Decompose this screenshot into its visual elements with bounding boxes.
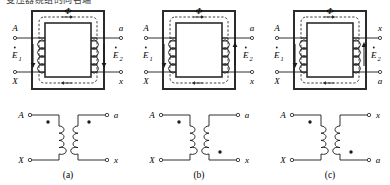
- panel-a-flux-path: [39, 17, 97, 83]
- panel-a-circuit-label-X: X: [17, 155, 24, 165]
- panel-c-emf-left-phasor-dot: [276, 47, 278, 49]
- panel-c-caption: (c): [325, 170, 336, 181]
- panel-a-emf-right: E 2: [104, 44, 124, 66]
- panel-b-circuit-label-x: x: [244, 155, 249, 165]
- panel-c-circuit-label-x: x: [375, 110, 380, 120]
- panel-b-flux-label: Φ: [196, 6, 203, 16]
- panel-a-polarity-dot-right: [87, 120, 90, 123]
- panel-a-flux-label: Φ: [65, 6, 72, 16]
- panel-b: Φ A X E 1: [142, 6, 255, 181]
- panel-a-emf-left: E 1: [11, 44, 33, 66]
- panel-a-emf-right-sub: 2: [120, 55, 124, 62]
- panel-c-circuit-label-X: X: [279, 155, 286, 165]
- panel-b-terminal-X: X: [142, 76, 149, 86]
- panel-a-terminal-a: a: [119, 23, 124, 33]
- panel-c-emf-right-sub: 2: [378, 55, 382, 62]
- panel-a-circuit-label-a: a: [114, 110, 119, 120]
- panel-c: Φ A X E 1: [273, 6, 383, 181]
- panel-a-emf-left-phasor-dot: [14, 47, 16, 49]
- panel-c-terminal-x: x: [377, 23, 382, 33]
- panel-a-caption: (a): [63, 170, 74, 181]
- panel-c-emf-left: E 1: [273, 44, 295, 66]
- panel-c-emf-left-sub: 1: [281, 55, 284, 62]
- panel-c-emf-right-label: E: [370, 50, 377, 60]
- panel-b-flux-path: [170, 17, 228, 83]
- panel-b-polarity-dot-left: [177, 120, 180, 123]
- panel-a-emf-right-phasor-dot: [115, 47, 117, 49]
- panel-a: Φ A X E 1: [11, 6, 124, 181]
- panel-b-emf-left-sub: 1: [150, 55, 153, 62]
- panel-b-circuit-label-A: A: [148, 110, 155, 120]
- panel-a-emf-right-label: E: [112, 50, 119, 60]
- panel-a-schematic: [31, 115, 106, 160]
- panel-b-schematic: [162, 115, 237, 160]
- panel-a-schematic-terminals: [28, 113, 108, 161]
- panel-c-terminal-X: X: [273, 76, 280, 86]
- panel-c-polarity-dot-right: [349, 150, 352, 153]
- panel-c-schematic-terminals: [290, 113, 370, 161]
- panel-b-emf-right: E 2: [235, 44, 254, 66]
- panel-c-flux-label: Φ: [327, 6, 334, 16]
- figure-canvas: Φ A X E 1: [0, 0, 390, 185]
- panel-c-core: [294, 11, 366, 89]
- panel-b-circuit-label-a: a: [245, 110, 250, 120]
- panel-b-terminal-a: a: [250, 23, 255, 33]
- panel-b-emf-left-phasor-dot: [145, 47, 147, 49]
- panel-c-polarity-dot-left: [308, 120, 311, 123]
- panel-b-emf-left: E 1: [142, 44, 164, 66]
- panel-a-core: [32, 11, 104, 89]
- panel-a-terminal-A: A: [11, 23, 18, 33]
- panel-c-circuit-label-A: A: [279, 110, 286, 120]
- panel-a-emf-left-sub: 1: [19, 55, 22, 62]
- panel-b-emf-right-phasor-dot: [245, 47, 247, 49]
- panel-b-terminal-x: x: [249, 76, 254, 86]
- panel-c-emf-left-label: E: [273, 50, 280, 60]
- panel-c-schematic: [293, 115, 368, 160]
- panel-a-polarity-dot-left: [46, 120, 49, 123]
- panel-a-emf-left-label: E: [11, 50, 18, 60]
- panel-a-circuit-label-A: A: [17, 110, 24, 120]
- panel-b-emf-right-sub: 2: [250, 55, 254, 62]
- panel-b-terminal-A: A: [142, 23, 149, 33]
- panel-c-terminal-a: a: [378, 76, 383, 86]
- panel-b-emf-left-label: E: [142, 50, 149, 60]
- panel-c-circuit-label-a: a: [376, 155, 381, 165]
- panel-b-emf-right-label: E: [242, 50, 249, 60]
- panel-b-schematic-terminals: [159, 113, 239, 161]
- panel-a-circuit-label-x: x: [113, 155, 118, 165]
- panel-b-caption: (b): [193, 170, 204, 181]
- panel-a-terminal-X: X: [11, 76, 18, 86]
- panel-b-polarity-dot-right: [218, 150, 221, 153]
- panel-b-core: [163, 11, 235, 89]
- panel-c-flux-path: [301, 17, 359, 83]
- panel-c-terminal-A: A: [273, 23, 280, 33]
- transformer-dot-convention-figure: Φ A X E 1: [0, 0, 390, 185]
- panel-a-terminal-x: x: [118, 76, 123, 86]
- panel-c-emf-right-phasor-dot: [373, 47, 375, 49]
- panel-b-circuit-label-X: X: [148, 155, 155, 165]
